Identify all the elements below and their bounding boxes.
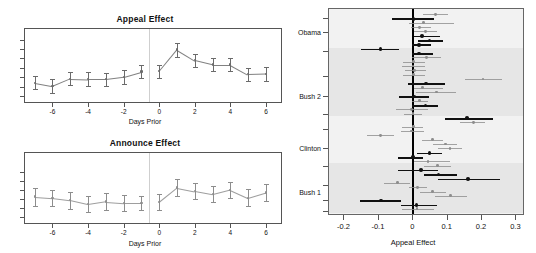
group-label-clinton: Clinton bbox=[290, 145, 321, 152]
error-bar-cap bbox=[211, 58, 216, 59]
error-bar-cap bbox=[50, 206, 55, 207]
error-bar-cap bbox=[86, 86, 91, 87]
error-bar-cap bbox=[246, 68, 251, 69]
group-tick-mark bbox=[323, 129, 328, 130]
confidence-interval bbox=[412, 44, 432, 46]
x-tick-label: 4 bbox=[229, 229, 233, 236]
x-tick-label: -0.1 bbox=[371, 222, 384, 231]
confidence-interval bbox=[401, 205, 437, 207]
error-bar-cap bbox=[264, 67, 269, 68]
point-estimate bbox=[413, 69, 416, 72]
y-tick-mark bbox=[20, 181, 24, 182]
error-bar-cap bbox=[139, 210, 144, 211]
error-bar-cap bbox=[104, 210, 109, 211]
data-point bbox=[265, 191, 267, 193]
x-tick-mark bbox=[124, 224, 125, 228]
point-estimate bbox=[466, 177, 470, 181]
announce-plot-area bbox=[24, 152, 282, 224]
group-tick-mark bbox=[323, 18, 328, 19]
point-estimate bbox=[424, 30, 427, 33]
x-tick-mark bbox=[195, 224, 196, 228]
x-tick-label: -2 bbox=[121, 229, 127, 236]
data-point bbox=[123, 202, 125, 204]
appeal-plot-area bbox=[24, 28, 282, 103]
point-estimate bbox=[417, 43, 421, 47]
x-tick-label: 2 bbox=[193, 229, 197, 236]
point-estimate bbox=[472, 121, 475, 124]
error-bar-cap bbox=[122, 195, 127, 196]
error-bar-cap bbox=[104, 193, 109, 194]
panel-announce-effect: Announce Effect Days Prior -6-4-20246 bbox=[0, 130, 290, 253]
error-bar-cap bbox=[228, 71, 233, 72]
x-tick-label: 6 bbox=[264, 229, 268, 236]
point-estimate bbox=[410, 108, 413, 111]
x-tick-mark bbox=[52, 103, 53, 107]
error-bar-cap bbox=[193, 199, 198, 200]
point-estimate bbox=[420, 34, 424, 38]
x-tick-mark bbox=[378, 215, 379, 220]
y-tick-mark bbox=[20, 208, 24, 209]
data-point bbox=[123, 76, 125, 78]
y-tick-mark bbox=[20, 58, 24, 59]
confidence-interval bbox=[424, 174, 457, 176]
x-tick-label: 0.2 bbox=[476, 222, 486, 231]
error-bar-cap bbox=[122, 84, 127, 85]
data-point bbox=[176, 186, 178, 188]
series-connector bbox=[88, 79, 106, 80]
x-tick-mark bbox=[266, 103, 267, 107]
data-point bbox=[212, 63, 214, 65]
error-bar-cap bbox=[211, 71, 216, 72]
point-estimate bbox=[415, 203, 419, 207]
x-tick-mark bbox=[230, 224, 231, 228]
x-tick-label: 0 bbox=[410, 222, 414, 231]
error-bar-cap bbox=[228, 58, 233, 59]
panel-appeal-effect-forest: Appeal Effect ObamaBush 2ClintonBush 1-0… bbox=[290, 0, 536, 253]
point-estimate bbox=[418, 26, 421, 29]
confidence-interval bbox=[412, 53, 433, 55]
group-tick-mark bbox=[323, 211, 328, 212]
error-bar-cap bbox=[193, 183, 198, 184]
error-bar-cap bbox=[175, 196, 180, 197]
confidence-interval bbox=[414, 36, 441, 38]
x-tick-mark bbox=[412, 215, 413, 220]
period-divider-line bbox=[149, 153, 150, 223]
error-bar-cap bbox=[157, 194, 162, 195]
error-bar-cap bbox=[33, 188, 38, 189]
error-bar-cap bbox=[68, 85, 73, 86]
data-point bbox=[176, 48, 178, 50]
error-bar-cap bbox=[211, 202, 216, 203]
x-tick-mark bbox=[447, 215, 448, 220]
data-point bbox=[51, 197, 53, 199]
error-bar-cap bbox=[50, 93, 55, 94]
error-bar-cap bbox=[86, 212, 91, 213]
group-label-bush-2: Bush 2 bbox=[290, 93, 321, 100]
error-bar-cap bbox=[193, 67, 198, 68]
error-bar-cap bbox=[33, 206, 38, 207]
error-bar-cap bbox=[246, 206, 251, 207]
error-bar-cap bbox=[175, 57, 180, 58]
point-estimate bbox=[417, 52, 421, 56]
error-bar-cap bbox=[50, 190, 55, 191]
error-bar-cap bbox=[139, 65, 144, 66]
confidence-interval bbox=[398, 170, 439, 172]
x-tick-mark bbox=[124, 103, 125, 107]
x-tick-mark bbox=[481, 215, 482, 220]
y-tick-mark bbox=[20, 40, 24, 41]
point-estimate bbox=[379, 134, 382, 137]
x-tick-mark bbox=[266, 224, 267, 228]
series-connector bbox=[124, 203, 142, 204]
error-bar-cap bbox=[68, 72, 73, 73]
point-estimate bbox=[425, 56, 428, 59]
group-tick-mark bbox=[323, 148, 328, 149]
error-bar-cap bbox=[175, 179, 180, 180]
error-bar-cap bbox=[86, 72, 91, 73]
error-bar-cap bbox=[264, 201, 269, 202]
confidence-interval bbox=[414, 88, 444, 89]
data-point bbox=[140, 202, 142, 204]
point-estimate bbox=[428, 151, 432, 155]
error-bar-cap bbox=[246, 81, 251, 82]
x-tick-mark bbox=[88, 224, 89, 228]
data-point bbox=[34, 195, 36, 197]
error-bar-cap bbox=[228, 182, 233, 183]
x-tick-label: -4 bbox=[85, 108, 91, 115]
